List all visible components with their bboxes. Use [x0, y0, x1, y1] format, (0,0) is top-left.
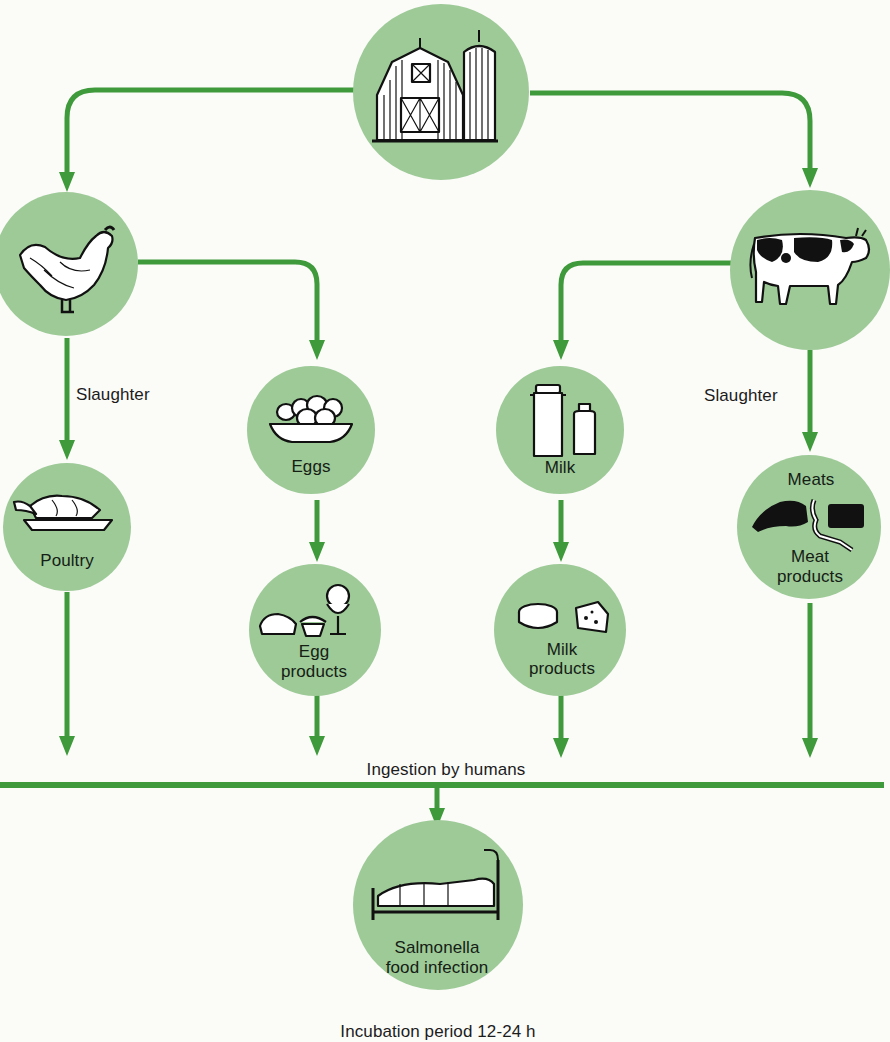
node-label-milk-products-1: Milk — [547, 640, 578, 660]
arrowhead-icon — [309, 340, 325, 360]
caption-incubation: Incubation period 12-24 h — [340, 1022, 535, 1042]
arrowhead-icon — [802, 738, 818, 758]
edge-chicken-eggs — [138, 262, 317, 345]
arrowhead-icon — [59, 172, 75, 192]
arrowhead-icon — [802, 168, 818, 188]
arrowhead-icon — [553, 542, 569, 562]
node-label-egg-products-1: Egg — [299, 642, 330, 662]
arrowhead-icon — [59, 440, 75, 460]
edge-farm-cow — [530, 93, 810, 172]
connectors — [0, 90, 884, 828]
arrowhead-icon — [553, 340, 569, 360]
node-label-meat-products-1: Meat — [791, 547, 829, 567]
node-label-meat-products-2: products — [777, 567, 843, 587]
arrowhead-icon — [553, 738, 569, 758]
edge-label-ingestion: Ingestion by humans — [367, 760, 526, 780]
node-label-milk: Milk — [545, 458, 576, 478]
node-circles — [0, 4, 890, 990]
node-label-meats: Meats — [788, 470, 835, 490]
edge-label-poultry-slaughter: Slaughter — [76, 385, 150, 405]
arrowhead-icon — [59, 736, 75, 756]
node-label-milk-products-2: products — [529, 659, 595, 679]
ingestion-bar — [0, 782, 884, 788]
edge-farm-chicken — [67, 90, 358, 176]
arrowhead-icon — [802, 432, 818, 452]
node-label-eggs: Eggs — [291, 457, 330, 477]
edge-cow-milk — [561, 263, 735, 345]
node-label-egg-products-2: products — [281, 662, 347, 682]
arrowhead-icon — [309, 542, 325, 562]
node-label-poultry: Poultry — [40, 551, 94, 571]
arrowhead-icon — [309, 736, 325, 756]
edge-label-cattle-slaughter: Slaughter — [704, 386, 778, 406]
node-label-infection-2: food infection — [386, 958, 489, 978]
node-label-infection-1: Salmonella — [394, 938, 479, 958]
